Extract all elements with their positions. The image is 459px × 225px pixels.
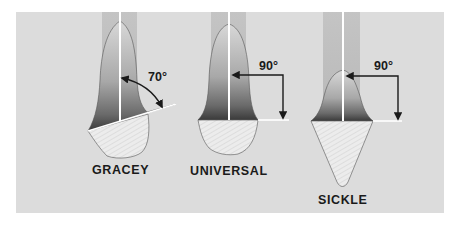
diagram-canvas (0, 0, 459, 225)
universal-label: UNIVERSAL (190, 164, 268, 178)
gracey-angle-label: 70° (148, 70, 167, 84)
sickle-label: SICKLE (318, 193, 367, 207)
instrument-angle-diagram: 70° 90° 90° GRACEY UNIVERSAL SICKLE (0, 0, 459, 225)
sickle-angle-label: 90° (374, 59, 393, 73)
gracey-label: GRACEY (92, 163, 149, 177)
universal-angle-label: 90° (259, 59, 278, 73)
